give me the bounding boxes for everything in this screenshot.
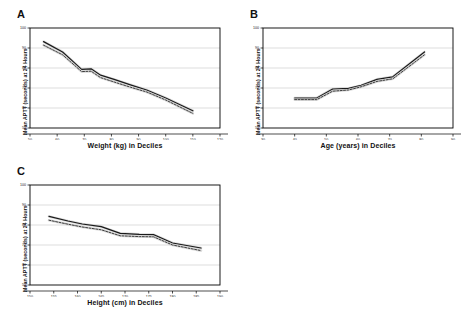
series-halo [295,52,425,98]
y-tick-label: 60 [255,106,259,110]
panel-b-plot: 506070809010030405060708090 [233,0,466,140]
y-tick-label: 90 [22,203,26,207]
series-line-solid [295,52,425,98]
y-tick-label: 70 [22,243,26,247]
x-tick-label: 155 [51,295,57,297]
x-tick-label: 70 [388,138,392,140]
x-tick-label: 80 [109,138,113,140]
x-tick-label: 175 [146,295,152,297]
y-tick-label: 60 [22,263,26,267]
x-tick-label: 100 [163,138,169,140]
x-tick-label: 165 [98,295,104,297]
panel-b: B Mean APTT (seconds) at 24 Hours Age (y… [233,0,466,157]
x-tick-label: 50 [324,138,328,140]
y-tick-label: 50 [22,126,26,130]
series-halo [295,55,425,100]
panel-c: C Mean APTT (seconds) at 24 Hours Height… [0,157,233,317]
y-tick-label: 100 [253,26,259,30]
y-tick-label: 60 [22,106,26,110]
x-tick-label: 150 [27,295,33,297]
x-tick-label: 70 [82,138,86,140]
y-tick-label: 50 [22,283,26,287]
x-tick-label: 90 [137,138,141,140]
x-tick-label: 40 [293,138,297,140]
x-tick-label: 30 [261,138,265,140]
x-tick-label: 60 [55,138,59,140]
x-tick-label: 185 [193,295,199,297]
x-tick-label: 170 [122,295,128,297]
series-line-dashed [295,55,425,100]
panel-a: A Mean APTT (seconds) at 24 Hours Weight… [0,0,233,157]
panel-b-x-axis-label: Age (years) in Deciles [263,142,453,149]
panel-a-plot: 50607080901005060708090100110120 [0,0,233,140]
x-tick-label: 50 [28,138,32,140]
x-tick-label: 120 [217,138,223,140]
series-halo [49,216,201,248]
y-tick-label: 90 [255,46,259,50]
y-tick-label: 100 [20,26,26,30]
y-tick-label: 80 [22,66,26,70]
y-tick-label: 80 [22,223,26,227]
x-tick-label: 190 [217,295,223,297]
x-tick-label: 180 [170,295,176,297]
y-tick-label: 100 [20,183,26,187]
x-tick-label: 160 [75,295,81,297]
x-tick-label: 110 [190,138,196,140]
y-tick-label: 70 [22,86,26,90]
panel-a-x-axis-label: Weight (kg) in Deciles [30,142,220,149]
y-tick-label: 80 [255,66,259,70]
x-tick-label: 90 [451,138,455,140]
y-tick-label: 90 [22,46,26,50]
y-tick-label: 50 [255,126,259,130]
y-tick-label: 70 [255,86,259,90]
series-line-solid [44,42,193,111]
panel-c-x-axis-label: Height (cm) in Deciles [30,299,220,306]
panel-c-plot: 5060708090100150155160165170175180185190 [0,157,233,297]
plot-frame [263,28,453,128]
x-tick-label: 80 [419,138,423,140]
x-tick-label: 60 [356,138,360,140]
